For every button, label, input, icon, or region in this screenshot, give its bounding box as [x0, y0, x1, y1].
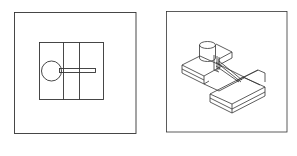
- block-outline: [40, 43, 104, 100]
- cylinder: [200, 42, 216, 62]
- isometric-view-drawing: [150, 0, 297, 156]
- top-view-panel: [0, 0, 150, 156]
- cylinder-circle: [42, 61, 62, 81]
- back-right-slab: [216, 44, 232, 65]
- front-right-slab: [210, 77, 265, 113]
- isometric-view-panel: [150, 0, 297, 156]
- rod-outline: [60, 69, 96, 73]
- isometric-view-frame: [167, 12, 288, 133]
- top-view-frame: [15, 13, 137, 134]
- top-view-drawing: [0, 0, 150, 156]
